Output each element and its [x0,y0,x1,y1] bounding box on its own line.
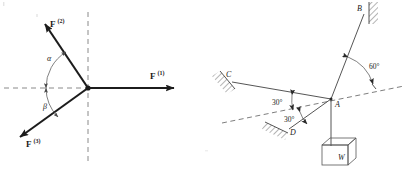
angle-30-upper-label: 30° [272,98,283,107]
vector-F2-superscript: (2) [58,18,65,25]
angle-30-lower-arc [300,112,307,124]
support-C [212,71,235,94]
point-B-label: B [357,4,362,13]
wall-hatch-C [212,71,235,94]
angle-30-upper-arc [292,95,293,110]
joint-A-label: A [334,100,340,109]
figure-canvas: F (2) F (1) F (3) α β [0,0,410,170]
force-origin-point [85,85,90,90]
vector-F2-shaft [45,24,88,88]
point-C-label: C [226,70,232,79]
cable-AC [232,82,331,99]
vector-F3-superscript: (3) [34,138,41,145]
dashed-reference-axis [222,86,404,123]
support-D [262,122,288,140]
physics-figure: F (2) F (1) F (3) α β [0,0,410,170]
angle-60-tick [372,84,376,89]
angle-60-label: 60° [369,62,380,71]
vector-F1-superscript: (1) [158,70,165,77]
vector-F1-label: F [150,71,156,81]
cable-AD [289,99,331,129]
cable-AB [331,14,364,99]
point-D-label: D [289,128,296,137]
wall-hatch-B [369,2,378,24]
alpha-angle-label: α [47,54,52,63]
weight-label: W [338,153,346,162]
scan-artifacts [3,2,208,151]
weight-box-side [348,138,356,165]
weight-box-top [322,138,356,145]
vector-F2-label: F [50,19,56,29]
left-diagram: F (2) F (1) F (3) α β [4,12,174,164]
beta-angle-label: β [42,102,47,111]
vector-F3-label: F [26,139,32,149]
joint-A-point [330,98,333,101]
support-B [369,2,378,24]
angle-30-lower-label: 30° [284,115,295,124]
right-diagram: B C D A 60° 30° 30° W [212,2,404,165]
